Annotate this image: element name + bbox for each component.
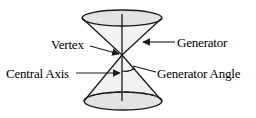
cone-diagram: Vertex Central Axis Generator Generator … <box>0 0 256 118</box>
label-central-axis: Central Axis <box>6 67 69 80</box>
label-generator: Generator <box>177 36 227 49</box>
cone-illustration <box>0 0 256 118</box>
label-vertex: Vertex <box>51 38 84 51</box>
label-generator-angle: Generator Angle <box>157 67 240 80</box>
